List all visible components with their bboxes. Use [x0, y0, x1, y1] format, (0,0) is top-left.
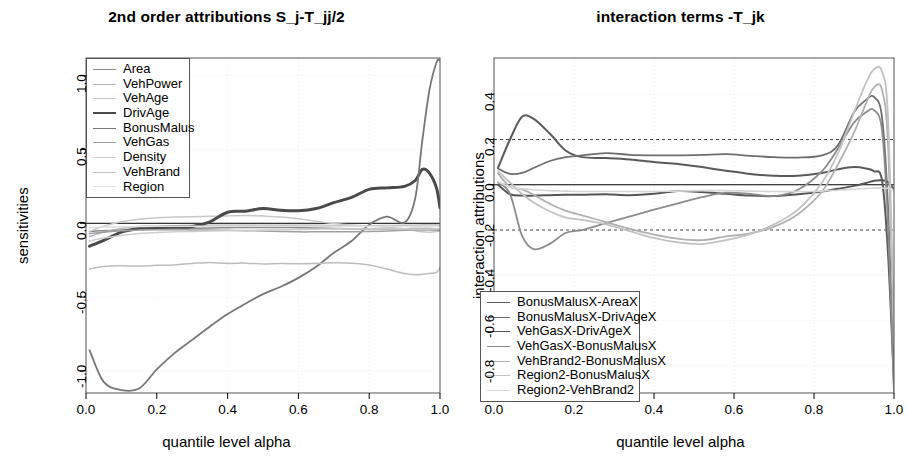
legend-label: BonusMalusX-DrivAgeX [517, 310, 656, 325]
legend-label: VehBrand [123, 165, 180, 180]
legend-item: BonusMalus [87, 121, 189, 136]
left-y-axis-label: sensitivities [14, 187, 31, 264]
panel-right: interaction terms -T_jk interaction attr… [454, 0, 907, 468]
legend-item: VehPower [87, 77, 189, 92]
legend-label: Region [123, 180, 164, 195]
legend-line-swatch [93, 69, 116, 70]
y-tick-label: 0.2 [482, 138, 497, 157]
legend-item: Region [87, 180, 189, 195]
y-tick-label: 0.0 [74, 222, 89, 241]
x-tick-label: 0.6 [720, 402, 748, 417]
legend-item: VehAge [87, 91, 189, 106]
legend-line-swatch [93, 84, 116, 85]
right-legend: BonusMalusX-AreaXBonusMalusX-DrivAgeXVeh… [480, 291, 640, 402]
x-tick-label: 0.6 [284, 402, 312, 417]
x-tick-label: 0.4 [214, 402, 242, 417]
y-tick-label: 0.4 [482, 92, 497, 111]
legend-label: Region2-BonusMalusX [517, 368, 650, 383]
legend-label: VehBrand2-BonusMalusX [517, 354, 666, 369]
x-tick-label: 1.0 [880, 402, 907, 417]
legend-label: BonusMalusX-AreaX [517, 295, 638, 310]
legend-item: BonusMalusX-DrivAgeX [481, 310, 639, 325]
left-plot-canvas [0, 0, 453, 468]
x-tick-label: 0.2 [143, 402, 171, 417]
legend-item: BonusMalusX-AreaX [481, 295, 639, 310]
series-line [90, 262, 440, 274]
legend-item: VehGas [87, 135, 189, 150]
legend-item: VehBrand2-BonusMalusX [481, 354, 639, 369]
legend-item: Region2-BonusMalusX [481, 368, 639, 383]
legend-item: VehGasX-BonusMalusX [481, 339, 639, 354]
legend-label: VehAge [123, 91, 169, 106]
panel-left: 2nd order attributions S_j-T_jj/2 sensit… [0, 0, 453, 468]
legend-label: VehPower [123, 77, 182, 92]
y-tick-label: 0.0 [482, 183, 497, 202]
x-tick-label: 0.2 [560, 402, 588, 417]
legend-label: BonusMalus [123, 121, 195, 136]
y-tick-label: -0.6 [482, 314, 497, 337]
x-tick-label: 0.0 [72, 402, 100, 417]
legend-line-swatch [93, 128, 116, 129]
figure-root: 2nd order attributions S_j-T_jj/2 sensit… [0, 0, 907, 468]
left-legend: AreaVehPowerVehAgeDrivAgeBonusMalusVehGa… [86, 58, 190, 198]
legend-label: VehGas [123, 135, 169, 150]
y-tick-label: 1.0 [74, 74, 89, 93]
legend-label: DrivAge [123, 106, 169, 121]
y-tick-label: -0.8 [482, 360, 497, 383]
legend-item: Region2-VehBrand2 [481, 383, 639, 398]
y-tick-label: -0.2 [482, 224, 497, 247]
series-line [498, 182, 894, 192]
legend-item: VehGasX-DrivAgeX [481, 324, 639, 339]
y-tick-label: -1.0 [74, 365, 89, 388]
legend-line-swatch [93, 157, 116, 158]
x-tick-label: 0.8 [800, 402, 828, 417]
y-tick-label: -0.5 [74, 291, 89, 314]
left-x-axis-label: quantile level alpha [0, 433, 453, 450]
legend-label: Region2-VehBrand2 [517, 383, 634, 398]
y-tick-label: -0.4 [482, 269, 497, 292]
legend-item: VehBrand [87, 165, 189, 180]
legend-item: DrivAge [87, 106, 189, 121]
legend-line-swatch [487, 346, 510, 347]
y-tick-label: 0.5 [74, 148, 89, 167]
x-tick-label: 1.0 [426, 402, 454, 417]
legend-item: Area [87, 62, 189, 77]
x-tick-label: 0.8 [355, 402, 383, 417]
x-tick-label: 0.0 [480, 402, 508, 417]
legend-item: Density [87, 150, 189, 165]
series-line [498, 180, 894, 196]
legend-line-swatch [93, 172, 116, 173]
legend-line-swatch [93, 186, 116, 187]
legend-label: VehGasX-DrivAgeX [517, 324, 631, 339]
legend-label: Area [123, 62, 150, 77]
right-x-axis-label: quantile level alpha [454, 433, 907, 450]
legend-line-swatch [93, 142, 116, 143]
legend-label: Density [123, 150, 166, 165]
x-tick-label: 0.4 [640, 402, 668, 417]
legend-line-swatch [93, 98, 116, 99]
legend-line-swatch [487, 390, 510, 391]
legend-line-swatch [93, 112, 116, 114]
legend-line-swatch [487, 302, 510, 303]
legend-label: VehGasX-BonusMalusX [517, 339, 656, 354]
